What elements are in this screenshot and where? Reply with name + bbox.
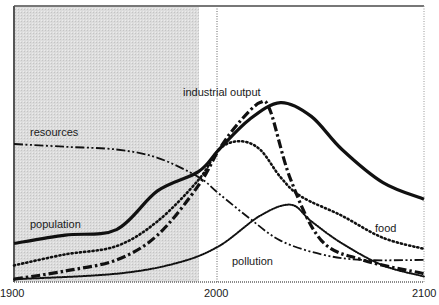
chart-canvas: [0, 0, 439, 305]
historical-shade: [14, 6, 199, 282]
label-food: food: [375, 222, 396, 234]
label-population: population: [30, 218, 81, 230]
label-industrial-output: industrial output: [183, 86, 261, 98]
x-tick-2000: 2000: [204, 287, 228, 299]
label-resources: resources: [30, 126, 78, 138]
x-tick-2100: 2100: [412, 287, 436, 299]
x-tick-1900: 1900: [0, 287, 24, 299]
label-pollution: pollution: [232, 255, 273, 267]
